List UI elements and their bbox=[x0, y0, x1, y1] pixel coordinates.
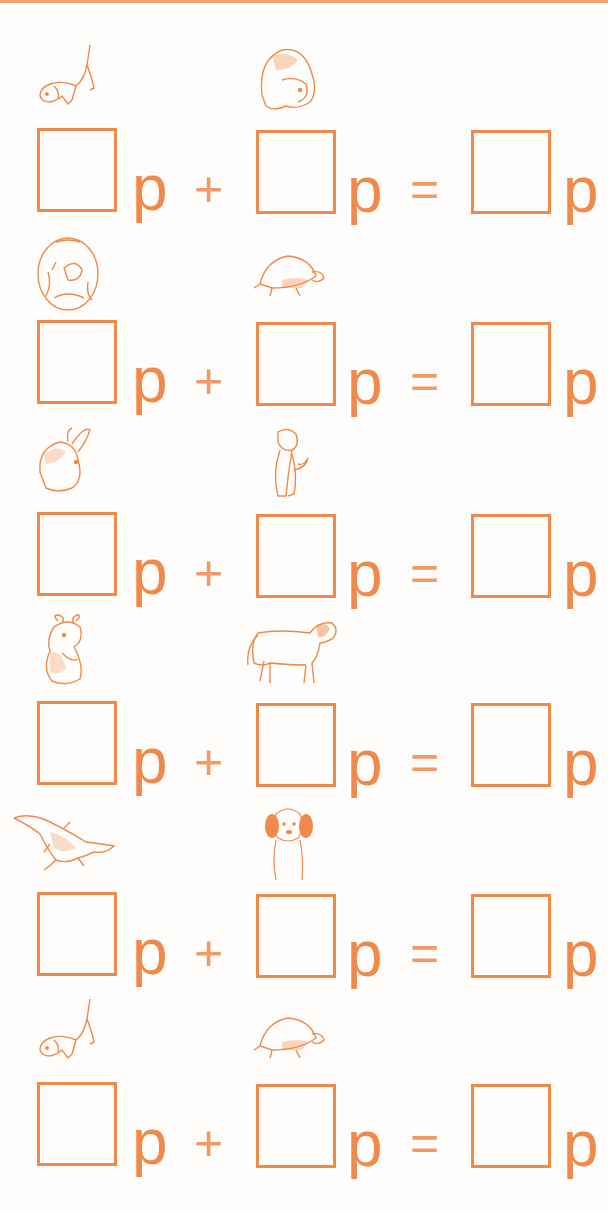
pence-unit-label: p bbox=[563, 1112, 599, 1176]
pony-icon bbox=[240, 613, 350, 693]
right-price-input[interactable] bbox=[259, 1087, 333, 1165]
equation-row-2: p + p = p bbox=[0, 192, 608, 382]
hamster-icon bbox=[32, 613, 107, 693]
guinea-pig-icon bbox=[252, 40, 327, 120]
plus-sign: + bbox=[194, 1118, 223, 1168]
pence-unit-label: p bbox=[347, 1112, 383, 1176]
tortoise-icon bbox=[252, 994, 327, 1074]
answer-box-left-price[interactable] bbox=[37, 1082, 117, 1166]
equation-row-5: p + p = p bbox=[0, 764, 608, 954]
answer-box-right-price[interactable] bbox=[256, 1084, 336, 1168]
goldfish-icon bbox=[32, 232, 107, 312]
equation-row-3: p + p = p bbox=[0, 384, 608, 574]
dog-icon bbox=[32, 40, 107, 120]
puppy-icon bbox=[252, 804, 327, 884]
left-price-input[interactable] bbox=[40, 1085, 114, 1163]
equation-row-1: p + p = p bbox=[0, 0, 608, 190]
answer-box-total[interactable] bbox=[471, 1084, 551, 1168]
pence-unit-label: p bbox=[132, 1110, 168, 1174]
equation-row-6: p + p = p bbox=[0, 954, 608, 1144]
dog-icon bbox=[32, 994, 107, 1074]
equals-sign: = bbox=[410, 1118, 439, 1168]
kitten-icon bbox=[252, 424, 327, 504]
rabbit-icon bbox=[32, 424, 107, 504]
tortoise-icon bbox=[252, 232, 327, 312]
total-input[interactable] bbox=[474, 1087, 548, 1165]
equation-row-4: p + p = p bbox=[0, 573, 608, 763]
crocodile-icon bbox=[10, 804, 120, 884]
